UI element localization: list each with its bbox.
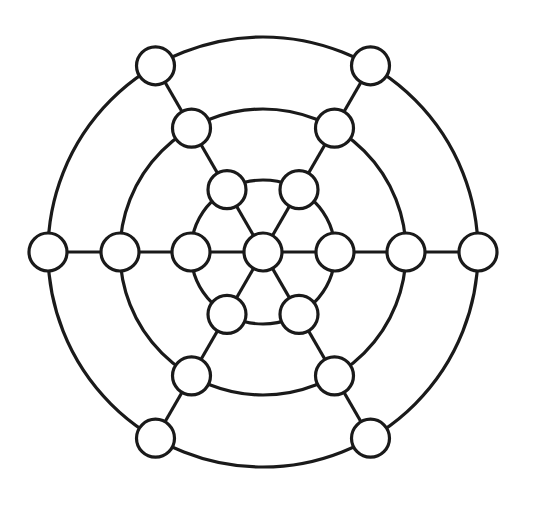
node-ring2-180 [101, 233, 139, 271]
spoke-300 [263, 252, 371, 438]
node-ring3-0 [459, 233, 497, 271]
node-ring2-60 [316, 109, 354, 147]
node-ring1-120 [208, 171, 246, 209]
graph-diagram [0, 0, 539, 506]
node-ring1-180 [172, 233, 210, 271]
node-ring3-180 [29, 233, 67, 271]
spoke-60 [263, 66, 371, 252]
node-ring2-240 [173, 357, 211, 395]
node-ring3-240 [137, 419, 175, 457]
node-ring1-300 [280, 295, 318, 333]
node-center [244, 233, 282, 271]
node-ring3-300 [352, 419, 390, 457]
node-ring2-300 [316, 357, 354, 395]
node-ring1-0 [316, 233, 354, 271]
node-ring3-60 [352, 47, 390, 85]
spoke-120 [156, 66, 264, 252]
spoke-240 [156, 252, 264, 438]
node-ring2-120 [173, 109, 211, 147]
node-ring1-240 [208, 295, 246, 333]
node-ring1-60 [280, 171, 318, 209]
node-ring2-0 [387, 233, 425, 271]
node-ring3-120 [137, 47, 175, 85]
